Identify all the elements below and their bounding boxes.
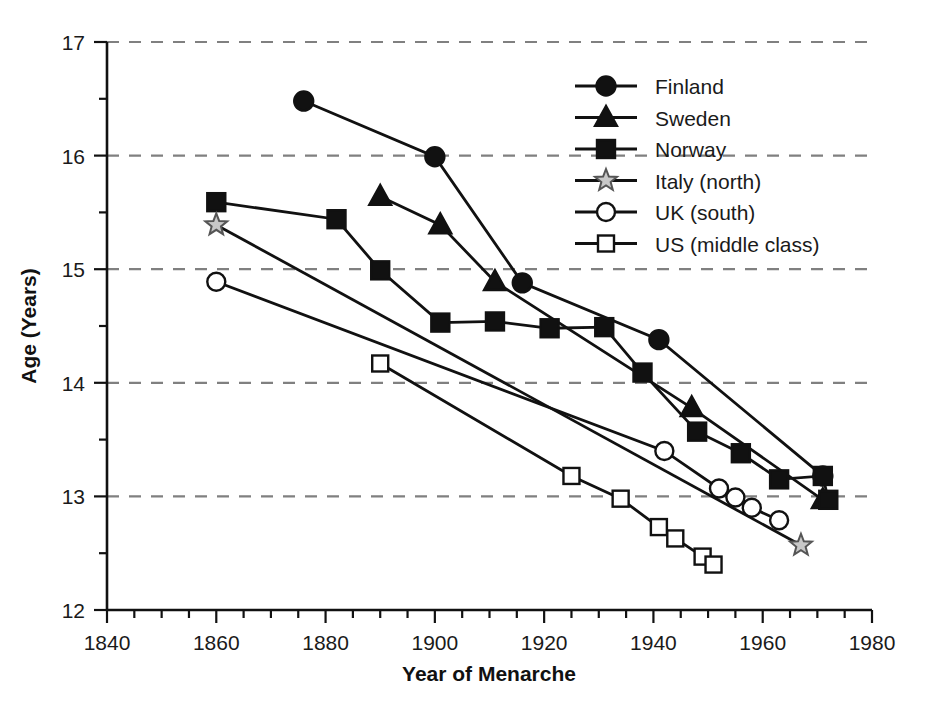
data-point-open-star: [205, 213, 227, 234]
legend-label: Norway: [655, 138, 727, 161]
x-tick-label: 1940: [630, 631, 677, 654]
data-point-filled-square: [595, 318, 613, 336]
chart-legend: FinlandSwedenNorwayItaly (north)UK (sout…: [575, 75, 820, 256]
data-point-filled-square: [770, 470, 788, 488]
data-point-filled-square: [688, 423, 706, 441]
series-line: [304, 101, 823, 476]
menarche-age-line-chart: 18401860188019001920194019601980 1213141…: [0, 0, 926, 710]
x-tick-label: 1860: [193, 631, 240, 654]
data-point-filled-square: [732, 444, 750, 462]
data-point-filled-triangle: [429, 213, 451, 233]
data-point-filled-circle: [649, 330, 668, 349]
legend-marker-open-circle: [597, 203, 615, 221]
data-point-filled-circle: [294, 92, 313, 111]
data-point-filled-square: [541, 319, 559, 337]
legend-marker-open-star: [595, 169, 617, 190]
y-tick-label: 16: [62, 145, 85, 168]
data-point-filled-circle: [513, 273, 532, 292]
x-tick-label: 1840: [84, 631, 131, 654]
data-point-open-square: [372, 355, 388, 371]
data-point-open-square: [706, 557, 722, 573]
data-point-filled-square: [207, 193, 225, 211]
data-point-filled-square: [431, 314, 449, 332]
y-tick-label: 12: [62, 599, 85, 622]
legend-entry-finland[interactable]: Finland: [575, 75, 724, 98]
data-point-filled-square: [814, 467, 832, 485]
y-tick-label: 13: [62, 485, 85, 508]
legend-entry-us-middle-class[interactable]: US (middle class): [575, 233, 820, 256]
data-point-filled-square: [634, 364, 652, 382]
series-us-middle-class: [372, 355, 721, 572]
legend-label: Sweden: [655, 107, 731, 130]
legend-entry-norway[interactable]: Norway: [575, 138, 727, 161]
x-axis-ticks: [107, 610, 872, 623]
legend-entry-italy-north[interactable]: Italy (north): [575, 169, 761, 193]
data-point-open-circle: [743, 499, 761, 517]
legend-marker-filled-square: [597, 140, 615, 158]
legend-entry-sweden[interactable]: Sweden: [575, 106, 731, 130]
data-point-filled-square: [371, 261, 389, 279]
data-point-open-star: [790, 534, 812, 555]
y-axis-title: Age (Years): [17, 268, 40, 384]
legend-marker-filled-circle: [597, 77, 616, 96]
y-tick-label: 14: [62, 372, 86, 395]
data-point-open-circle: [726, 489, 744, 507]
y-tick-label: 17: [62, 31, 85, 54]
x-tick-label: 1960: [739, 631, 786, 654]
data-point-open-square: [563, 468, 579, 484]
data-point-open-circle: [710, 479, 728, 497]
y-axis-tick-labels: 121314151617: [62, 31, 86, 622]
data-point-open-square: [667, 530, 683, 546]
data-point-filled-triangle: [369, 185, 391, 205]
data-point-filled-triangle: [681, 396, 703, 416]
legend-marker-filled-triangle: [595, 106, 617, 126]
y-tick-label: 15: [62, 258, 85, 281]
x-tick-label: 1980: [849, 631, 896, 654]
x-axis-title: Year of Menarche: [402, 662, 576, 685]
x-tick-label: 1880: [302, 631, 349, 654]
legend-entry-uk-south[interactable]: UK (south): [575, 201, 755, 224]
series-finland: [294, 92, 832, 486]
legend-marker-open-square: [598, 236, 614, 252]
data-point-open-square: [651, 519, 667, 535]
data-point-filled-square: [486, 312, 504, 330]
data-point-open-circle: [207, 273, 225, 291]
y-axis-ticks: [94, 42, 107, 610]
data-series-layer: [205, 92, 837, 573]
chart-figure: 18401860188019001920194019601980 1213141…: [0, 0, 926, 710]
data-point-filled-square: [819, 491, 837, 509]
x-tick-label: 1920: [521, 631, 568, 654]
data-point-open-circle: [655, 442, 673, 460]
data-point-open-square: [613, 491, 629, 507]
x-axis-tick-labels: 18401860188019001920194019601980: [84, 631, 896, 654]
data-point-filled-square: [328, 210, 346, 228]
data-point-filled-circle: [425, 147, 444, 166]
legend-label: US (middle class): [655, 233, 820, 256]
x-tick-label: 1900: [411, 631, 458, 654]
legend-label: Italy (north): [655, 170, 761, 193]
legend-label: UK (south): [655, 201, 755, 224]
data-point-open-circle: [770, 511, 788, 529]
legend-label: Finland: [655, 75, 724, 98]
